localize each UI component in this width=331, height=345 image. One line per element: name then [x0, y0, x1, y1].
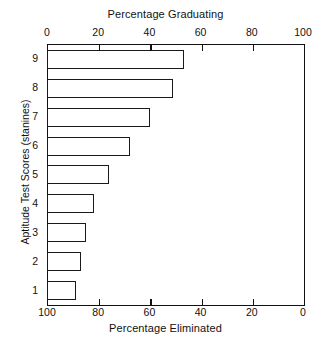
bottom-tick-label: 20 [246, 306, 258, 318]
bar [47, 137, 130, 156]
bottom-tick-label: 100 [38, 306, 56, 318]
bottom-tick-label: 80 [92, 306, 104, 318]
top-tick-label: 60 [195, 26, 207, 38]
bar-row [48, 218, 304, 247]
axis-tick-mark [202, 299, 203, 305]
plot-area [47, 44, 305, 306]
bar-row [48, 74, 304, 103]
bar [47, 223, 86, 242]
bar [47, 108, 150, 127]
bar [47, 252, 81, 271]
bar-row [48, 103, 304, 132]
bars-layer [48, 45, 304, 305]
top-axis-title: Percentage Graduating [0, 8, 331, 20]
bottom-tick-label: 40 [195, 306, 207, 318]
axis-tick-mark [253, 299, 254, 305]
bar [47, 281, 76, 300]
axis-tick-mark [99, 299, 100, 305]
y-tick-label: 7 [32, 110, 38, 122]
y-tick-label: 1 [32, 284, 38, 296]
bar [47, 50, 184, 69]
bar-row [48, 276, 304, 305]
bottom-tick-label: 0 [300, 306, 306, 318]
bar-row [48, 247, 304, 276]
axis-tick-mark [99, 45, 100, 51]
top-axis-tick-labels: 020406080100 [0, 26, 331, 40]
bar-row [48, 132, 304, 161]
y-tick-label: 3 [32, 226, 38, 238]
y-axis-tick-labels: 987654321 [0, 44, 44, 304]
y-tick-label: 9 [32, 52, 38, 64]
y-tick-label: 5 [32, 168, 38, 180]
axis-tick-mark [150, 45, 151, 51]
bar [47, 165, 109, 184]
axis-tick-mark [253, 45, 254, 51]
axis-tick-mark [150, 299, 151, 305]
y-tick-label: 4 [32, 197, 38, 209]
top-tick-label: 80 [246, 26, 258, 38]
bottom-axis-title: Percentage Eliminated [0, 322, 331, 334]
axis-tick-mark [202, 45, 203, 51]
bottom-axis-tick-labels: 100806040200 [0, 306, 331, 320]
y-tick-label: 2 [32, 255, 38, 267]
top-tick-label: 0 [44, 26, 50, 38]
top-tick-label: 100 [294, 26, 312, 38]
bottom-tick-label: 60 [144, 306, 156, 318]
bar-row [48, 161, 304, 190]
bar-row [48, 189, 304, 218]
bar [47, 194, 94, 213]
y-tick-label: 8 [32, 81, 38, 93]
bar-chart-figure: Percentage Graduating 020406080100 Aptit… [0, 0, 331, 345]
bar [47, 79, 173, 98]
bar-row [48, 45, 304, 74]
y-tick-label: 6 [32, 139, 38, 151]
top-tick-label: 40 [144, 26, 156, 38]
top-tick-label: 20 [92, 26, 104, 38]
